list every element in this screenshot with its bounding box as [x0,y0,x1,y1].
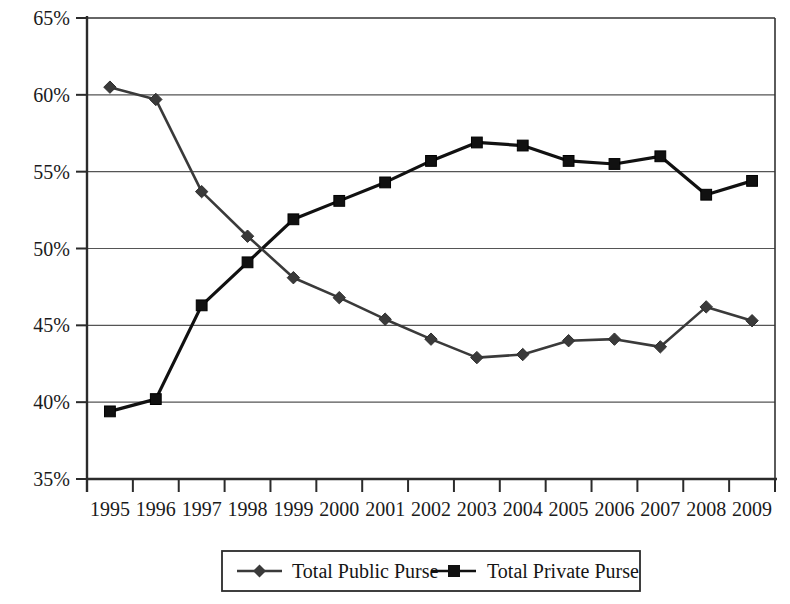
data-point-public [608,333,620,345]
data-point-private [471,137,482,148]
gridlines-group [87,95,775,479]
data-point-public [562,335,574,347]
x-tick-label: 1999 [273,498,313,520]
y-tick-label: 65% [33,7,70,29]
x-tick-label: 2003 [457,498,497,520]
y-tick-label: 50% [33,238,70,260]
x-tick-label: 2008 [686,498,726,520]
series-line-total-public-purse [110,87,752,357]
data-point-public [517,348,529,360]
x-tick-label: 1996 [136,498,176,520]
data-point-private [701,189,712,200]
legend-label-public: Total Public Purse [292,560,438,582]
bottom-caption [0,590,790,604]
x-tick-label: 2004 [503,498,543,520]
data-point-private [105,406,116,417]
y-tick-label: 35% [33,468,70,490]
y-tick-label: 55% [33,161,70,183]
data-point-private [517,140,528,151]
square-marker-icon [448,565,460,577]
chart-container: 35%40%45%50%55%60%65% 199519961997199819… [0,0,790,604]
series-markers-total-private-purse [105,137,758,417]
x-tick-label: 2005 [549,498,589,520]
data-point-public [104,81,116,93]
x-tick-label: 2009 [732,498,772,520]
y-tick-label: 40% [33,391,70,413]
x-axis-ticks: 1995199619971998199920002001200220032004… [87,479,775,520]
data-point-private [426,156,437,167]
y-tick-label: 45% [33,314,70,336]
data-point-private [242,257,253,268]
data-point-private [288,214,299,225]
series-markers-total-public-purse [104,81,759,364]
line-chart: 35%40%45%50%55%60%65% 199519961997199819… [0,0,790,604]
data-point-private [563,156,574,167]
x-tick-label: 2000 [319,498,359,520]
x-tick-label: 1998 [228,498,268,520]
data-point-public [471,351,483,363]
series-line-total-private-purse [110,142,752,411]
data-point-private [196,300,207,311]
x-tick-label: 1995 [90,498,130,520]
x-tick-label: 2007 [640,498,680,520]
data-point-private [655,151,666,162]
chart-legend: Total Public Purse Total Private Purse [222,551,640,591]
data-point-public [379,313,391,325]
data-point-private [334,195,345,206]
y-axis-ticks: 35%40%45%50%55%60%65% [33,7,87,490]
data-point-public [425,333,437,345]
legend-label-private: Total Private Purse [487,560,639,582]
data-point-public [333,291,345,303]
x-tick-label: 2002 [411,498,451,520]
data-point-private [380,177,391,188]
y-tick-label: 60% [33,84,70,106]
x-tick-label: 2006 [594,498,634,520]
x-tick-label: 1997 [182,498,222,520]
data-point-private [150,394,161,405]
x-tick-label: 2001 [365,498,405,520]
data-point-private [747,175,758,186]
data-point-private [609,159,620,170]
